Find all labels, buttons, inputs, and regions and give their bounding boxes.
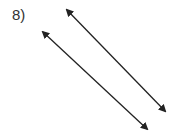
parallel-lines-diagram <box>0 0 180 140</box>
line-a-double-arrow <box>67 10 165 111</box>
line-b-double-arrow <box>43 32 147 129</box>
